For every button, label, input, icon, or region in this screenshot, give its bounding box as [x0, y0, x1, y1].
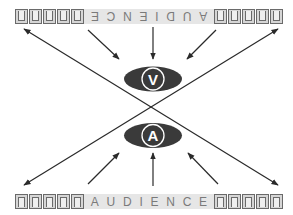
seat-icon	[29, 194, 42, 209]
diagram-arrows: V A	[0, 0, 293, 215]
seat-icon	[228, 9, 241, 24]
bottom-seats-right	[214, 194, 283, 209]
seat-icon	[71, 194, 84, 209]
bottom-audience-row: A U D I E N C E	[15, 193, 283, 210]
seat-icon	[57, 194, 70, 209]
top-audience-label: A U D I E N C E	[84, 9, 214, 24]
seat-icon	[256, 194, 269, 209]
seat-icon	[15, 9, 28, 24]
seat-icon	[242, 9, 255, 24]
seat-icon	[29, 9, 42, 24]
bottom-seats-left	[15, 194, 84, 209]
node-v: V	[124, 67, 182, 92]
arrow-bottom-right-to-a	[188, 153, 218, 184]
seat-icon	[71, 9, 84, 24]
node-v-letter: V	[148, 71, 158, 88]
seat-icon	[15, 194, 28, 209]
arrow-top-left-to-v	[88, 30, 119, 59]
node-a: A	[124, 123, 182, 148]
seat-icon	[228, 194, 241, 209]
top-audience-row: A U D I E N C E	[15, 8, 283, 25]
seat-icon	[270, 194, 283, 209]
arrow-bottom-left-to-a	[88, 153, 119, 184]
seat-icon	[57, 9, 70, 24]
seat-icon	[256, 9, 269, 24]
seat-icon	[214, 194, 227, 209]
top-seats-left	[214, 9, 283, 24]
top-seats-right	[15, 9, 84, 24]
seat-icon	[242, 194, 255, 209]
seat-icon	[270, 9, 283, 24]
seat-icon	[43, 9, 56, 24]
seat-icon	[43, 194, 56, 209]
arrow-top-right-to-v	[187, 30, 216, 59]
node-a-letter: A	[148, 127, 159, 144]
bottom-audience-label: A U D I E N C E	[84, 194, 214, 209]
seat-icon	[214, 9, 227, 24]
